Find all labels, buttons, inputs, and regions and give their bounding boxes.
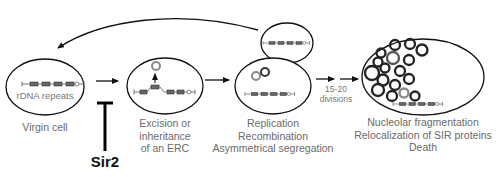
- caption-line: Recombination: [213, 130, 334, 143]
- excision-cell: [127, 58, 203, 114]
- divisions-count: 15-20: [320, 84, 353, 94]
- caption-line: Excision or: [139, 117, 190, 130]
- caption-replication: Replication Recombination Asymmetrical s…: [213, 117, 334, 155]
- old-cell: [362, 39, 484, 115]
- virgin-cell: [6, 59, 84, 115]
- caption-excision: Excision or inheritance of an ERC: [139, 117, 190, 155]
- replication-cell: [235, 58, 311, 114]
- caption-line: Relocalization of SIR proteins: [354, 129, 492, 142]
- divisions-label: 15-20 divisions: [320, 84, 353, 104]
- return-arrow: [58, 19, 258, 48]
- caption-line: of an ERC: [139, 142, 190, 155]
- caption-line: Death: [354, 141, 492, 154]
- caption-line: inheritance: [139, 130, 190, 143]
- daughter-cell: [261, 23, 313, 63]
- caption-line: Virgin cell: [22, 121, 67, 134]
- caption-line: Nucleolar fragmentation: [354, 116, 492, 129]
- sir2-inhibition: [97, 103, 113, 151]
- caption-old-cell: Nucleolar fragmentation Relocalization o…: [354, 116, 492, 154]
- sir2-label: Sir2: [91, 153, 119, 170]
- rdna-repeats-label: rDNA repeats: [16, 90, 73, 101]
- caption-line: Asymmetrical segregation: [213, 142, 334, 155]
- caption-line: Replication: [213, 117, 334, 130]
- caption-virgin-cell: Virgin cell: [22, 121, 67, 134]
- divisions-word: divisions: [320, 94, 353, 104]
